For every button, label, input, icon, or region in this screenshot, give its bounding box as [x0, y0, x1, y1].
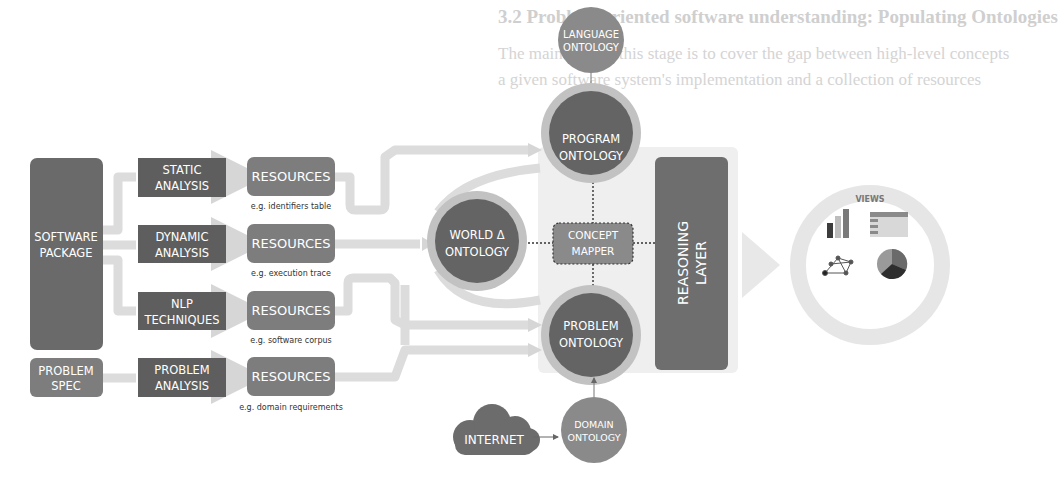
svg-text:RESOURCES: RESOURCES [251, 169, 330, 184]
internet-cloud: INTERNET [453, 404, 558, 455]
svg-text:TECHNIQUES: TECHNIQUES [144, 313, 220, 327]
svg-text:SOFTWARE: SOFTWARE [34, 230, 98, 244]
world-ontology-circle: WORLD Δ ONTOLOGY [427, 191, 527, 291]
svg-text:ONTOLOGY: ONTOLOGY [559, 336, 624, 350]
svg-text:e.g. execution trace: e.g. execution trace [251, 269, 331, 278]
concept-mapper-box: CONCEPT MAPPER [553, 223, 633, 264]
reasoning-layer-box: REASONING LAYER [655, 157, 728, 370]
table-icon [870, 212, 908, 237]
svg-text:PROGRAM: PROGRAM [562, 132, 620, 146]
svg-text:ANALYSIS: ANALYSIS [155, 246, 209, 260]
svg-text:DYNAMIC: DYNAMIC [155, 230, 208, 244]
svg-text:e.g. identifiers table: e.g. identifiers table [251, 202, 332, 211]
dynamic-analysis-box: DYNAMIC ANALYSIS [138, 225, 226, 263]
svg-text:ANALYSIS: ANALYSIS [155, 179, 209, 193]
svg-text:ONTOLOGY: ONTOLOGY [563, 42, 620, 53]
svg-text:LANGUAGE: LANGUAGE [563, 29, 619, 40]
output-arrow [742, 232, 780, 298]
static-analysis-box: STATIC ANALYSIS [138, 158, 226, 197]
svg-text:NLP: NLP [171, 297, 193, 311]
program-ontology-circle: PROGRAM ONTOLOGY [541, 83, 641, 183]
svg-text:SPEC: SPEC [51, 379, 81, 393]
resources-box-execution: RESOURCES e.g. execution trace [247, 224, 335, 278]
svg-text:ONTOLOGY: ONTOLOGY [568, 432, 621, 443]
resources-box-domain: RESOURCES e.g. domain requirements [239, 357, 343, 412]
svg-text:CONCEPT: CONCEPT [568, 229, 619, 241]
svg-text:VIEWS: VIEWS [855, 195, 884, 204]
domain-ontology-circle: DOMAIN ONTOLOGY [561, 378, 627, 463]
svg-text:e.g. software corpus: e.g. software corpus [250, 336, 331, 345]
pie-chart-icon [877, 249, 907, 279]
resources-box-identifiers: RESOURCES e.g. identifiers table [247, 157, 335, 211]
svg-text:DOMAIN: DOMAIN [574, 419, 613, 430]
svg-text:e.g. domain requirements: e.g. domain requirements [239, 403, 343, 412]
svg-text:ANALYSIS: ANALYSIS [155, 379, 209, 393]
nlp-techniques-box: NLP TECHNIQUES [138, 292, 226, 330]
svg-text:ONTOLOGY: ONTOLOGY [559, 149, 624, 163]
resources-box-corpus: RESOURCES e.g. software corpus [247, 291, 335, 345]
svg-text:PROBLEM: PROBLEM [563, 319, 618, 333]
svg-text:REASONING: REASONING [675, 221, 691, 305]
problem-analysis-box: PROBLEM ANALYSIS [138, 358, 226, 397]
svg-text:PROBLEM: PROBLEM [154, 363, 209, 377]
svg-text:MAPPER: MAPPER [572, 245, 615, 257]
svg-text:RESOURCES: RESOURCES [251, 303, 330, 318]
svg-text:LAYER: LAYER [693, 241, 709, 285]
software-package-box: SOFTWARE PACKAGE [30, 158, 103, 350]
problem-spec-box: PROBLEM SPEC [30, 358, 103, 397]
svg-text:RESOURCES: RESOURCES [251, 369, 330, 384]
language-ontology-circle: LANGUAGE ONTOLOGY [558, 7, 624, 88]
views-panel: VIEWS [798, 193, 942, 337]
svg-text:ONTOLOGY: ONTOLOGY [445, 245, 510, 259]
svg-text:STATIC: STATIC [163, 163, 202, 177]
svg-text:INTERNET: INTERNET [464, 433, 524, 447]
svg-text:WORLD Δ: WORLD Δ [449, 228, 504, 242]
svg-text:RESOURCES: RESOURCES [251, 236, 330, 251]
svg-text:PROBLEM: PROBLEM [38, 364, 93, 378]
problem-ontology-circle: PROBLEM ONTOLOGY [541, 285, 641, 385]
svg-text:PACKAGE: PACKAGE [39, 246, 92, 260]
network-graph-icon [823, 256, 854, 276]
